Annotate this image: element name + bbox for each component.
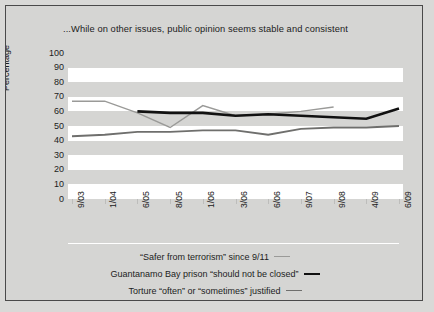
x-tick-label: 3/06 — [239, 191, 249, 208]
x-tick-mark — [301, 199, 302, 204]
y-tick-label: 50 — [34, 122, 64, 131]
y-tick-label: 20 — [34, 165, 64, 174]
legend-label: “Safer from terrorism” since 9/11 — [140, 252, 269, 262]
x-tick-mark — [170, 199, 171, 204]
series-line — [72, 126, 399, 136]
x-tick-mark — [137, 199, 138, 204]
legend-item: Guantanamo Bay prison “should not be clo… — [6, 268, 423, 279]
legend-swatch — [286, 290, 302, 291]
y-tick-label: 40 — [34, 136, 64, 145]
x-tick-label: 8/05 — [174, 191, 184, 208]
x-axis-line — [68, 243, 399, 244]
x-tick-label: 6/09 — [403, 191, 413, 208]
y-tick-label: 10 — [34, 180, 64, 189]
series-line — [137, 108, 399, 118]
y-tick-label: 30 — [34, 151, 64, 160]
chart-title: ...While on other issues, public opinion… — [63, 24, 413, 40]
chart-figure: ...While on other issues, public opinion… — [5, 5, 423, 301]
x-tick-label: 1/04 — [108, 191, 118, 208]
x-tick-mark — [105, 199, 106, 204]
y-tick-label: 0 — [34, 195, 64, 204]
y-tick-label: 80 — [34, 78, 64, 87]
y-tick-label: 90 — [34, 63, 64, 72]
series-lines — [68, 53, 403, 199]
x-tick-mark — [268, 199, 269, 204]
x-axis-tickmarks — [68, 199, 403, 207]
x-tick-label: 9/08 — [337, 191, 347, 208]
legend-swatch — [274, 256, 290, 257]
y-tick-label: 70 — [34, 92, 64, 101]
x-tick-label: 1/06 — [206, 191, 216, 208]
legend-label: Guantanamo Bay prison “should not be clo… — [110, 269, 298, 279]
x-tick-mark — [366, 199, 367, 204]
y-tick-label: 100 — [34, 49, 64, 58]
legend-label: Torture “often” or “sometimes” justified — [128, 286, 280, 296]
x-tick-label: 6/05 — [141, 191, 151, 208]
x-tick-mark — [236, 199, 237, 204]
x-tick-label: 9/03 — [76, 191, 86, 208]
legend-swatch — [304, 273, 320, 275]
x-tick-mark — [334, 199, 335, 204]
x-tick-label: 6/06 — [272, 191, 282, 208]
legend-item: “Safer from terrorism” since 9/11 — [6, 251, 423, 262]
legend-item: Torture “often” or “sometimes” justified — [6, 285, 423, 296]
y-axis-ticks: 1009080706050403020100 — [32, 53, 64, 199]
plot-area — [68, 53, 403, 199]
x-tick-mark — [203, 199, 204, 204]
y-axis-label: Percentage — [5, 45, 11, 91]
x-tick-mark — [72, 199, 73, 204]
y-tick-label: 60 — [34, 107, 64, 116]
x-tick-label: 9/07 — [304, 191, 314, 208]
x-tick-label: 4/09 — [370, 191, 380, 208]
x-tick-mark — [399, 199, 400, 204]
